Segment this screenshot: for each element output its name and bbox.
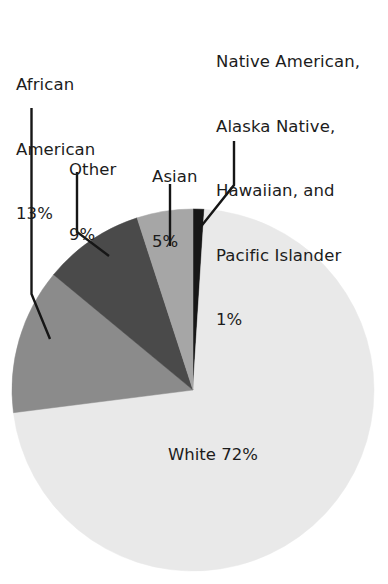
slice-label-asian-line1: Asian bbox=[152, 166, 198, 188]
slice-label-native-american: Native American, Alaska Native, Hawaiian… bbox=[216, 8, 360, 374]
slice-label-native-american-value: 1% bbox=[216, 309, 360, 331]
slice-label-other-value: 9% bbox=[69, 224, 116, 246]
pie-chart-figure: African American 13% Other 9% Asian 5% N… bbox=[0, 0, 388, 584]
slice-label-native-american-line1: Native American, bbox=[216, 51, 360, 73]
slice-label-asian-value: 5% bbox=[152, 231, 198, 253]
slice-label-other-line1: Other bbox=[69, 159, 116, 181]
slice-label-native-american-line4: Pacific Islander bbox=[216, 245, 360, 267]
slice-label-native-american-line3: Hawaiian, and bbox=[216, 180, 360, 202]
slice-label-native-american-line2: Alaska Native, bbox=[216, 116, 360, 138]
slice-label-white: White 72% bbox=[168, 444, 258, 465]
slice-label-asian: Asian 5% bbox=[152, 123, 198, 295]
slice-label-african-american-line1: African bbox=[16, 74, 95, 96]
slice-label-other: Other 9% bbox=[69, 116, 116, 288]
